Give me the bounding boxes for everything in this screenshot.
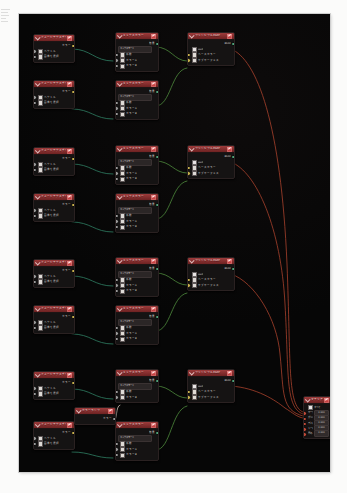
node-input-row[interactable]: 画像を選択 [34,213,74,219]
chevron-down-icon[interactable] [117,306,123,312]
output-socket[interactable] [112,417,116,422]
color-swatch-icon[interactable] [120,225,125,230]
input-socket[interactable] [33,55,37,60]
color-swatch-icon[interactable] [192,171,197,176]
node-header[interactable]: ミックスカラー [116,81,158,88]
input-socket[interactable] [303,432,307,437]
chevron-down-icon[interactable] [189,146,195,152]
input-socket[interactable] [33,392,37,397]
input-socket[interactable] [33,436,37,441]
output-value-row[interactable]: 厚み0.000 [304,431,330,436]
input-socket[interactable] [187,171,191,176]
wrench-icon[interactable] [67,82,72,87]
chevron-down-icon[interactable] [117,194,123,200]
node-input-row[interactable]: 画像を選択 [34,279,74,285]
input-socket[interactable] [115,390,119,395]
output-socket[interactable] [71,203,75,208]
node-input-row[interactable]: 画像を選択 [34,54,74,60]
input-socket[interactable] [115,283,119,288]
input-socket[interactable] [115,101,119,106]
node-header[interactable]: プリンシプルBSDF [188,370,234,377]
wrench-icon[interactable] [67,195,72,200]
output-socket[interactable] [155,431,159,436]
input-socket[interactable] [115,289,119,294]
node-input-row[interactable]: 画像を選択 [34,167,74,173]
principled-bsdf-node[interactable]: プリンシプルBSDFBSDFGGXベースカラーサブサーフェス [187,32,235,66]
node-output-row[interactable]: カラー [75,416,115,422]
wrench-icon[interactable] [227,259,232,264]
output-socket[interactable] [71,157,75,162]
wrench-icon[interactable] [67,373,72,378]
input-socket[interactable] [115,326,119,331]
input-socket[interactable] [187,395,191,400]
input-socket[interactable] [115,106,119,111]
input-socket[interactable] [115,171,119,176]
input-socket[interactable] [115,225,119,230]
input-socket[interactable] [115,112,119,117]
chevron-down-icon[interactable] [35,422,41,428]
wrench-icon[interactable] [151,195,156,200]
node-header[interactable]: イメージテクスチャ [34,148,74,155]
output-socket[interactable] [71,269,75,274]
node-input-row[interactable]: カラーB [116,176,158,182]
input-socket[interactable] [33,326,37,331]
mix-color-node[interactable]: ミックスカラー結果ミックスモード係数カラーAカラーB [115,32,159,72]
node-header[interactable]: イメージテクスチャ [34,81,74,88]
material-output-node[interactable]: マテリアル出力すべてサーフェス0.000ボリューム0.000ディスプレ0.000… [303,396,330,439]
output-socket[interactable] [71,381,75,386]
chevron-down-icon[interactable] [35,81,41,87]
output-socket[interactable] [155,155,159,160]
image-texture-node[interactable]: イメージテクスチャカラーベクトル画像を選択 [33,259,75,288]
input-socket[interactable] [187,58,191,63]
color-swatch-icon[interactable] [38,213,43,218]
wrench-icon[interactable] [227,147,232,152]
color-swatch-icon[interactable] [38,325,43,330]
image-texture-node[interactable]: イメージテクスチャカラーベクトル画像を選択 [33,147,75,176]
output-socket[interactable] [71,431,75,436]
node-header[interactable]: ミックスカラー [116,33,158,40]
node-input-row[interactable]: カラーB [116,452,158,458]
color-swatch-icon[interactable] [120,395,125,400]
chevron-down-icon[interactable] [117,33,123,39]
color-swatch-icon[interactable] [38,167,43,172]
wrench-icon[interactable] [151,259,156,264]
wrench-icon[interactable] [151,423,156,428]
node-header[interactable]: イメージテクスチャ [34,194,74,201]
output-socket[interactable] [155,315,159,320]
input-socket[interactable] [115,219,119,224]
node-input-row[interactable]: サブサーフェス [188,171,234,177]
color-swatch-icon[interactable] [38,441,43,446]
color-swatch-icon[interactable] [120,177,125,182]
node-input-row[interactable]: サブサーフェス [188,395,234,401]
node-header[interactable]: イメージテクスチャ [34,306,74,313]
input-socket[interactable] [115,337,119,342]
node-header[interactable]: ミックスカラー [116,194,158,201]
output-socket[interactable] [71,315,75,320]
wrench-icon[interactable] [151,34,156,39]
chevron-down-icon[interactable] [117,146,123,152]
color-swatch-icon[interactable] [192,283,197,288]
input-socket[interactable] [33,214,37,219]
node-input-row[interactable]: サブサーフェス [188,283,234,289]
node-input-row[interactable]: サブサーフェス [188,58,234,64]
color-swatch-icon[interactable] [38,391,43,396]
input-socket[interactable] [115,278,119,283]
input-socket[interactable] [33,442,37,447]
input-socket[interactable] [33,280,37,285]
image-texture-node[interactable]: イメージテクスチャカラーベクトル画像を選択 [33,193,75,222]
wrench-icon[interactable] [67,261,72,266]
node-header[interactable]: ミックスカラー [116,370,158,377]
color-swatch-icon[interactable] [120,64,125,69]
node-header[interactable]: イメージテクスチャ [34,422,74,429]
color-swatch-icon[interactable] [38,54,43,59]
input-socket[interactable] [115,331,119,336]
output-value-field[interactable]: 0.000 [314,430,329,436]
node-header[interactable]: イメージテクスチャ [34,35,74,42]
chevron-down-icon[interactable] [35,372,41,378]
node-header[interactable]: ミックスカラー [116,146,158,153]
node-input-row[interactable]: カラーB [116,111,158,117]
chevron-down-icon[interactable] [117,422,123,428]
input-socket[interactable] [33,386,37,391]
chevron-down-icon[interactable] [189,33,195,39]
color-swatch-icon[interactable] [192,395,197,400]
